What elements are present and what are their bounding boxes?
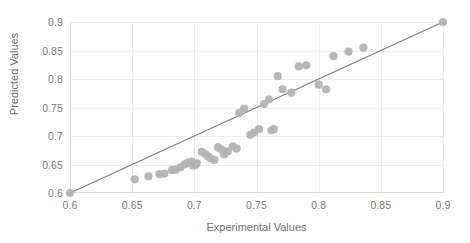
y-tick-label: 0.8: [48, 73, 63, 85]
data-layer: [70, 22, 443, 193]
data-point: [287, 89, 295, 97]
gridline-vertical: [443, 22, 444, 193]
data-point: [131, 175, 139, 183]
data-point: [210, 156, 218, 164]
data-point: [66, 189, 74, 197]
y-axis-title: Predicted Values: [8, 14, 20, 134]
data-point: [344, 48, 352, 56]
data-point: [193, 159, 201, 167]
data-point: [359, 44, 367, 52]
data-point: [255, 125, 263, 133]
y-tick-label: 0.85: [42, 45, 63, 57]
data-point: [302, 61, 310, 69]
x-tick-label: 0.8: [311, 199, 326, 211]
parity-reference-line: [70, 22, 443, 193]
data-point: [439, 18, 447, 26]
data-point: [160, 170, 168, 178]
data-point: [270, 125, 278, 133]
data-point: [315, 81, 323, 89]
data-point: [265, 95, 273, 103]
data-point: [322, 85, 330, 93]
x-tick-label: 0.65: [122, 199, 143, 211]
x-tick-label: 0.9: [436, 199, 451, 211]
scatter-plot-figure: 0.90.850.80.750.70.650.6 Predicted Value…: [0, 0, 470, 243]
data-point: [274, 72, 282, 80]
data-point: [144, 172, 152, 180]
x-tick-label: 0.6: [63, 199, 78, 211]
plot-area: [70, 22, 443, 193]
data-point: [295, 62, 303, 70]
data-point: [329, 52, 337, 60]
data-point: [240, 105, 248, 113]
data-point: [233, 144, 241, 152]
x-axis-tick-labels: 0.60.650.70.750.80.850.9: [70, 199, 443, 215]
x-tick-label: 0.85: [370, 199, 391, 211]
x-tick-label: 0.75: [246, 199, 267, 211]
y-tick-label: 0.75: [42, 102, 63, 114]
data-point: [279, 85, 287, 93]
x-axis-title: Experimental Values: [70, 221, 443, 233]
y-tick-label: 0.65: [42, 159, 63, 171]
x-tick-label: 0.7: [187, 199, 202, 211]
y-tick-label: 0.9: [48, 16, 63, 28]
y-tick-label: 0.7: [48, 130, 63, 142]
y-tick-label: 0.6: [48, 187, 63, 199]
